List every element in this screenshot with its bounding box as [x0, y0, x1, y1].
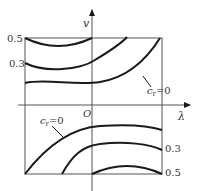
diagram: v λ O 0.5 0.3 0.3 0.5 cr=0 cr=0 [0, 0, 199, 191]
curve-upper-0.3 [25, 37, 127, 69]
left-tick-0.5: 0.5 [7, 33, 23, 44]
curve-label-lower: cr=0 [40, 115, 64, 128]
origin-label: O [83, 108, 91, 119]
frame-box [25, 38, 162, 174]
curve-label-upper: cr=0 [147, 85, 171, 98]
y-axis-label: v [83, 17, 90, 30]
curve-upper-0.5 [25, 38, 92, 46]
left-tick-0.3: 0.3 [9, 58, 25, 69]
x-axis-label: λ [177, 110, 185, 123]
right-tick-0.3: 0.3 [165, 143, 181, 154]
curve-lower-0.5 [92, 166, 162, 174]
leader-lower-cr0 [52, 126, 64, 138]
right-tick-0.5: 0.5 [165, 167, 181, 178]
